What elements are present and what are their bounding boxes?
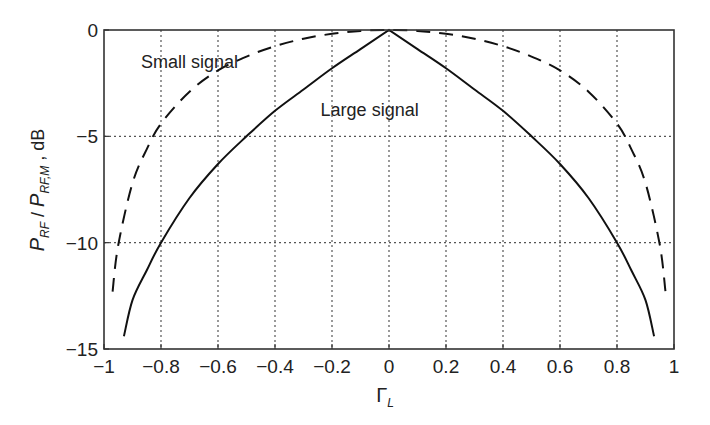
y-tick-label: 0 xyxy=(87,20,98,41)
x-tick-label: 0 xyxy=(384,356,395,377)
x-tick-label: 0.8 xyxy=(604,356,630,377)
x-tick-label: 1 xyxy=(669,356,680,377)
y-tick-label: −15 xyxy=(66,339,98,360)
y-axis-label: PRF / PRF,M , dB xyxy=(26,129,52,252)
y-tick-label: −5 xyxy=(76,126,98,147)
x-tick-label: −0.4 xyxy=(256,356,294,377)
x-tick-label: −0.2 xyxy=(313,356,351,377)
line-chart: −1−0.8−0.6−0.4−0.200.20.40.60.81 0−5−10−… xyxy=(0,0,710,425)
y-axis-ticks: 0−5−10−15 xyxy=(66,20,109,360)
x-tick-label: −0.6 xyxy=(199,356,237,377)
x-tick-label: 0.4 xyxy=(490,356,517,377)
x-axis-label: ΓL xyxy=(376,384,394,410)
x-tick-label: 0.2 xyxy=(433,356,459,377)
annotation-small-signal: Small signal xyxy=(141,52,238,72)
grid-lines xyxy=(104,30,674,349)
x-axis-label-main: Γ xyxy=(376,384,387,406)
x-tick-label: −0.8 xyxy=(142,356,180,377)
y-tick-label: −10 xyxy=(66,233,98,254)
series-annotations: Small signalLarge signal xyxy=(141,52,419,120)
x-axis-label-sub: L xyxy=(387,396,394,410)
annotation-large-signal: Large signal xyxy=(321,100,419,120)
x-tick-label: 0.6 xyxy=(547,356,573,377)
